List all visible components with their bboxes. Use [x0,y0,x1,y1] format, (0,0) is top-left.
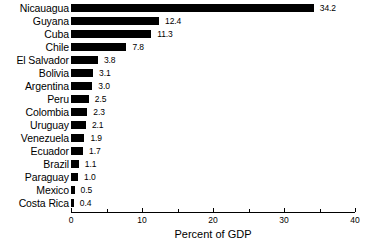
bar-value-label: 0.4 [80,197,92,210]
bar-row: Mexico0.5 [0,184,365,197]
x-axis-major-tick [284,208,285,212]
bar-row: Chile7.8 [0,41,365,54]
bar-value-label: 1.7 [89,145,101,158]
bar-track: 11.3 [71,28,361,41]
category-label: Colombia [25,106,69,119]
bar-row: Uruguay2.1 [0,119,365,132]
bar [71,147,83,155]
bar-row: Brazil1.1 [0,158,365,171]
bar-row: Nicauagua34.2 [0,2,365,15]
category-label: Peru [47,93,69,106]
bar-row: Costa Rica0.4 [0,197,365,210]
bar [71,95,89,103]
horizontal-bar-chart: Nicauagua34.2Guyana12.4Cuba11.3Chile7.8E… [0,0,365,249]
x-axis-minor-tick [320,209,321,212]
bar [71,186,75,194]
bar [71,4,314,12]
bar-track: 0.4 [71,197,361,210]
category-label: Brazil [43,158,69,171]
category-label: Paraguay [25,171,69,184]
x-axis-tick-label: 40 [350,215,359,225]
bar-value-label: 0.5 [81,184,93,197]
bar [71,134,84,142]
x-axis-minor-tick [178,209,179,212]
category-label: Costa Rica [19,197,69,210]
bar [71,121,86,129]
bar-value-label: 7.8 [132,41,144,54]
bar-row: Ecuador1.7 [0,145,365,158]
x-axis-tick-label: 30 [279,215,288,225]
bar [71,56,98,64]
bar [71,160,79,168]
x-axis-tick-label: 10 [137,215,146,225]
bar [71,199,74,207]
category-label: Cuba [44,28,69,41]
category-label: Guyana [33,15,69,28]
category-label: Venezuela [21,132,69,145]
bar-value-label: 3.1 [99,67,111,80]
category-label: Chile [46,41,69,54]
bar-track: 3.1 [71,67,361,80]
x-axis-minor-tick [107,209,108,212]
bar-track: 1.0 [71,171,361,184]
bar [71,17,159,25]
bar-value-label: 11.3 [157,28,173,41]
bar-track: 34.2 [71,2,361,15]
x-axis-major-tick [142,208,143,212]
bar-value-label: 12.4 [165,15,181,28]
x-axis-major-tick [355,208,356,212]
bar-value-label: 1.0 [84,171,96,184]
bar-track: 3.0 [71,80,361,93]
bar-track: 12.4 [71,15,361,28]
category-label: Ecuador [31,145,69,158]
bar-track: 1.7 [71,145,361,158]
bar-row: Guyana12.4 [0,15,365,28]
x-axis-tick-label: 20 [208,215,217,225]
x-axis-title: Percent of GDP [71,228,355,240]
bar [71,108,87,116]
x-axis-tick-label: 0 [69,215,74,225]
bar-track: 1.9 [71,132,361,145]
bar-track: 7.8 [71,41,361,54]
bar-value-label: 3.0 [98,80,110,93]
x-axis-major-tick [71,208,72,212]
bar-row: Venezuela1.9 [0,132,365,145]
bar-track: 3.8 [71,54,361,67]
bar-row: Argentina3.0 [0,80,365,93]
bar-value-label: 1.9 [90,132,102,145]
bar-track: 0.5 [71,184,361,197]
bar-value-label: 2.1 [92,119,104,132]
bar [71,173,78,181]
bar-row: Cuba11.3 [0,28,365,41]
bar-value-label: 1.1 [85,158,97,171]
x-axis-minor-tick [249,209,250,212]
x-axis-major-tick [213,208,214,212]
bar-track: 2.3 [71,106,361,119]
bar-value-label: 2.5 [95,93,107,106]
bar-row: El Salvador3.8 [0,54,365,67]
bar [71,69,93,77]
x-axis: 010203040 Percent of GDP [71,212,355,249]
bar-track: 2.5 [71,93,361,106]
bar-row: Paraguay1.0 [0,171,365,184]
x-axis-line [71,212,355,213]
bar-value-label: 3.8 [104,54,116,67]
bar-track: 2.1 [71,119,361,132]
category-label: Argentina [25,80,69,93]
bar [71,82,92,90]
category-label: Bolivia [39,67,69,80]
bar-row: Bolivia3.1 [0,67,365,80]
bar [71,43,126,51]
category-label: El Salvador [16,54,69,67]
category-label: Nicauagua [20,2,69,15]
category-label: Uruguay [30,119,69,132]
bar-value-label: 34.2 [320,2,336,15]
bar-value-label: 2.3 [93,106,105,119]
bar-track: 1.1 [71,158,361,171]
bar [71,30,151,38]
bar-row: Peru2.5 [0,93,365,106]
bar-row: Colombia2.3 [0,106,365,119]
category-label: Mexico [36,184,69,197]
